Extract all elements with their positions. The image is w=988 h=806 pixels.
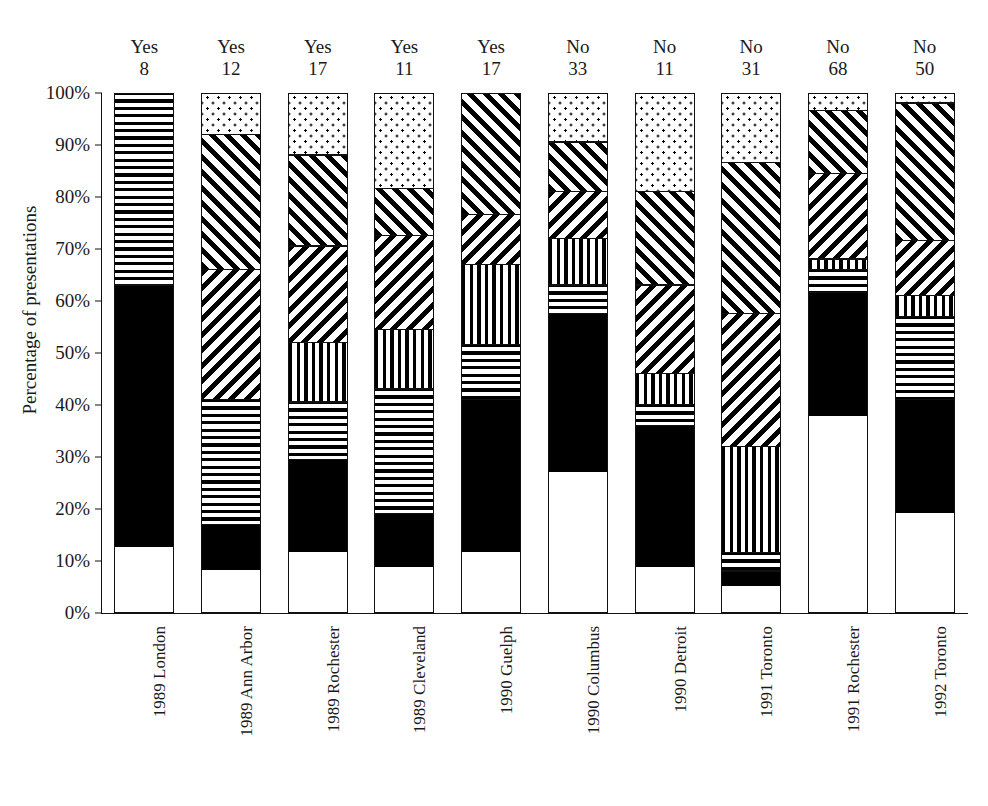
segment-divider xyxy=(289,245,347,246)
bar-segment-black xyxy=(549,313,607,472)
stacked-bar[interactable] xyxy=(201,93,261,613)
bar-segment-diagonal-fwd xyxy=(636,191,694,285)
bar-segment-dotted xyxy=(722,93,780,162)
segment-divider xyxy=(809,173,867,174)
stacked-bar[interactable] xyxy=(548,93,608,613)
bar-segment-white xyxy=(202,570,260,612)
y-tick-label: 90% xyxy=(28,134,90,156)
annotation-answer: No xyxy=(708,36,795,58)
bar-segment-horizontal xyxy=(809,269,867,292)
bar-slot xyxy=(288,93,348,613)
bar-segment-black xyxy=(896,399,954,513)
bar-segment-vertical xyxy=(896,295,954,316)
segment-divider xyxy=(289,342,347,343)
bar-segment-black xyxy=(375,513,433,567)
bar-segment-white xyxy=(636,567,694,612)
segment-divider xyxy=(375,513,433,514)
x-tick-label: 1989 London xyxy=(150,626,170,717)
bar-top-annotation: Yes12 xyxy=(188,36,275,81)
segment-divider xyxy=(809,269,867,270)
segment-divider xyxy=(289,154,347,155)
segment-divider xyxy=(896,295,954,296)
bar-segment-black xyxy=(462,399,520,552)
segment-divider xyxy=(375,188,433,189)
y-tick-label: 50% xyxy=(28,342,90,364)
y-tick-mark xyxy=(95,301,102,302)
bar-slot xyxy=(201,93,261,613)
y-tick-label: 70% xyxy=(28,238,90,260)
segment-divider xyxy=(722,313,780,314)
x-tick-label: 1991 Rochester xyxy=(844,626,864,732)
bar-segment-vertical xyxy=(636,373,694,404)
bar-segment-diagonal-back xyxy=(549,191,607,238)
bar-segment-black xyxy=(289,459,347,553)
stacked-bar[interactable] xyxy=(114,93,174,613)
stacked-bar[interactable] xyxy=(374,93,434,613)
bar-segment-dotted xyxy=(289,93,347,154)
bar-slot xyxy=(114,93,174,613)
y-tick-mark xyxy=(95,145,102,146)
stacked-bar[interactable] xyxy=(635,93,695,613)
segment-divider xyxy=(462,214,520,215)
bar-segment-diagonal-back xyxy=(375,235,433,329)
segment-divider xyxy=(462,344,520,345)
bar-top-annotation: No33 xyxy=(535,36,622,81)
segment-divider xyxy=(896,399,954,400)
segment-divider xyxy=(375,235,433,236)
segment-divider xyxy=(896,240,954,241)
y-tick-mark xyxy=(95,561,102,562)
y-tick-label: 0% xyxy=(28,602,90,624)
stacked-bar-chart: Percentage of presentations 100%90%80%70… xyxy=(0,0,988,806)
annotation-answer: No xyxy=(795,36,882,58)
y-tick-mark xyxy=(95,249,102,250)
bar-top-annotation: Yes17 xyxy=(448,36,535,81)
annotation-count: 17 xyxy=(448,58,535,80)
annotation-answer: Yes xyxy=(101,36,188,58)
bar-segment-diagonal-back xyxy=(722,313,780,446)
segment-divider xyxy=(549,141,607,142)
stacked-bar[interactable] xyxy=(721,93,781,613)
stacked-bar[interactable] xyxy=(895,93,955,613)
stacked-bar[interactable] xyxy=(461,93,521,613)
segment-divider xyxy=(636,373,694,374)
segment-divider xyxy=(289,401,347,402)
bar-segment-diagonal-fwd xyxy=(202,134,260,269)
x-tick-label: 1992 Toronto xyxy=(931,626,951,718)
stacked-bar[interactable] xyxy=(808,93,868,613)
y-axis-ticks: 100%90%80%70%60%50%40%30%20%10%0% xyxy=(28,0,90,806)
bar-segment-diagonal-fwd xyxy=(549,141,607,190)
plot-area xyxy=(101,93,968,613)
stacked-bar[interactable] xyxy=(288,93,348,613)
bar-segment-dotted xyxy=(809,93,867,110)
y-tick-mark xyxy=(95,93,102,94)
segment-divider xyxy=(549,284,607,285)
y-tick-label: 80% xyxy=(28,186,90,208)
segment-divider xyxy=(809,258,867,259)
bar-segment-diagonal-fwd xyxy=(809,110,867,172)
bar-slot xyxy=(548,93,608,613)
bar-slot xyxy=(721,93,781,613)
segment-divider xyxy=(202,524,260,525)
bar-top-annotation: Yes8 xyxy=(101,36,188,81)
bar-segment-vertical xyxy=(549,238,607,285)
bar-top-annotation: Yes11 xyxy=(361,36,448,81)
bar-segment-diagonal-back xyxy=(896,240,954,295)
segment-divider xyxy=(636,404,694,405)
bar-segment-dotted xyxy=(896,93,954,102)
segment-divider xyxy=(636,425,694,426)
bar-segment-vertical xyxy=(722,446,780,553)
annotation-answer: Yes xyxy=(448,36,535,58)
bar-segment-dotted xyxy=(549,93,607,141)
bar-segment-dotted xyxy=(636,93,694,191)
bar-segment-diagonal-back xyxy=(809,173,867,259)
segment-divider xyxy=(722,570,780,571)
bar-segment-horizontal xyxy=(722,552,780,570)
bar-slot xyxy=(374,93,434,613)
segment-divider xyxy=(722,162,780,163)
bar-segment-horizontal xyxy=(115,93,173,284)
bar-segment-white xyxy=(289,552,347,612)
annotation-count: 11 xyxy=(361,58,448,80)
bar-segment-black xyxy=(202,524,260,571)
bar-segment-dotted xyxy=(375,93,433,188)
bar-segment-diagonal-fwd xyxy=(722,162,780,313)
